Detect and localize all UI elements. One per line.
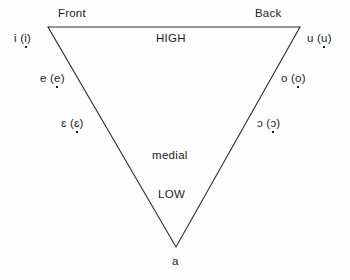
vowel-nasal-e: e — [54, 73, 61, 85]
front-label: Front — [58, 8, 86, 20]
vowel-plain-e: e — [40, 72, 47, 84]
vowel-label-epsilon: ɛ (ɛ) — [61, 118, 83, 130]
paren-close-u: ) — [328, 32, 332, 44]
paren-close-e: ) — [61, 72, 65, 84]
vowel-label-i: i (i) — [14, 33, 31, 45]
vowel-plain-u: u — [307, 32, 314, 44]
vowel-label-o: o (o) — [281, 73, 306, 85]
paren-close-epsilon: ) — [79, 117, 83, 129]
zone-label-medial: medial — [152, 150, 188, 162]
paren-close-i: ) — [27, 32, 31, 44]
zone-label-high: HIGH — [156, 33, 186, 45]
vowel-nasal-o: o — [295, 73, 302, 85]
vowel-nasal-u: u — [321, 33, 328, 45]
vowel-label-a: a — [172, 256, 178, 268]
vowel-triangle-diagram: Front Back HIGH medial LOW i (i) u (u) e… — [0, 0, 350, 280]
vowel-plain-o: o — [281, 72, 288, 84]
vowel-label-u: u (u) — [307, 33, 332, 45]
back-label: Back — [255, 8, 281, 20]
paren-close-o: ) — [302, 72, 306, 84]
zone-label-low: LOW — [158, 189, 185, 201]
vowel-nasal-epsilon: ɛ — [74, 118, 79, 130]
paren-close-open-o: ) — [276, 117, 280, 129]
vowel-label-open-o: ɔ (ɔ) — [257, 118, 280, 130]
vowel-nasal-open-o: ɔ — [270, 118, 276, 130]
vowel-label-e: e (e) — [40, 73, 65, 85]
vowel-nasal-i: i — [24, 33, 27, 45]
triangle-shape — [48, 27, 300, 247]
